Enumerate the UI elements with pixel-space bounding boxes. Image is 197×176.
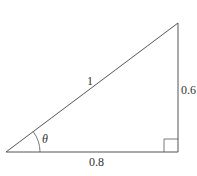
right-angle-marker xyxy=(164,139,178,152)
triangle-diagram xyxy=(0,0,197,176)
angle-arc xyxy=(33,132,40,152)
hypotenuse-label: 1 xyxy=(87,75,93,87)
opposite-side-label: 0.6 xyxy=(181,84,196,96)
adjacent-side-label: 0.8 xyxy=(89,156,104,168)
angle-theta-label: θ xyxy=(42,133,48,145)
